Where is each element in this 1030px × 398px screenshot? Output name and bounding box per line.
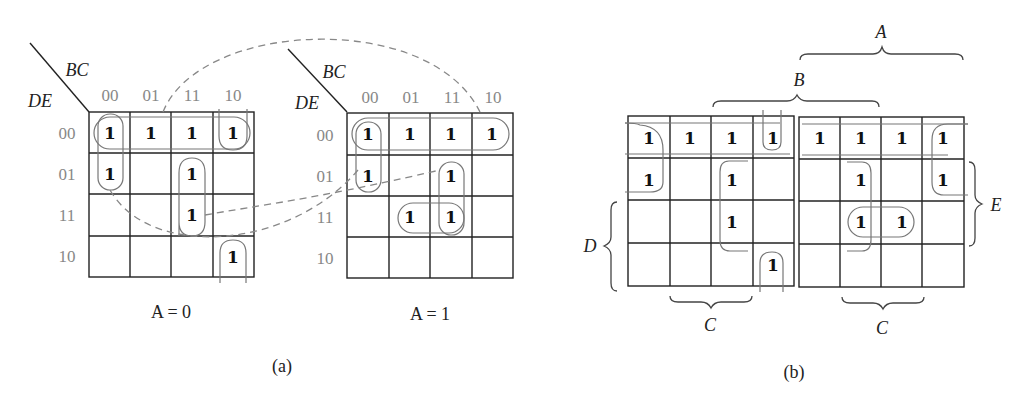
grid — [628, 116, 964, 287]
col-var-label: BC — [65, 60, 89, 80]
cell-one: 1 — [486, 124, 498, 144]
cell-one: 1 — [643, 170, 655, 190]
cell-one: 1 — [445, 207, 457, 227]
cell-one: 1 — [814, 128, 826, 148]
cell-one: 1 — [896, 212, 908, 232]
brace-A — [800, 47, 963, 60]
row-code: 10 — [317, 249, 334, 268]
cell-one: 1 — [855, 170, 867, 190]
cell-one: 1 — [104, 123, 116, 143]
brace-E — [969, 162, 982, 246]
cell-one: 1 — [643, 128, 655, 148]
brace-C-left — [670, 296, 752, 308]
col-code: 10 — [485, 88, 502, 107]
figure-caption-b: (b) — [784, 362, 805, 383]
row-code: 01 — [59, 165, 76, 184]
cell-one: 1 — [186, 164, 198, 184]
col-code: 10 — [225, 86, 242, 105]
row-var-label: DE — [294, 93, 319, 113]
brace-label-B: B — [794, 70, 805, 90]
row-code: 11 — [317, 208, 333, 227]
col-code: 00 — [102, 86, 119, 105]
cell-one: 1 — [855, 128, 867, 148]
col-code: 01 — [403, 88, 420, 107]
cell-one: 1 — [186, 123, 198, 143]
cell-one: 1 — [362, 124, 374, 144]
cell-one: 1 — [445, 166, 457, 186]
cell-one: 1 — [227, 247, 239, 267]
cell-one: 1 — [404, 124, 416, 144]
brace-D — [604, 202, 617, 291]
cell-one: 1 — [767, 128, 779, 148]
cell-one: 1 — [684, 128, 696, 148]
cell-one: 1 — [227, 123, 239, 143]
kmap-a0: BC DE 00 01 11 10 00 01 11 10 11111111 — [27, 43, 254, 322]
cell-one: 1 — [445, 124, 457, 144]
figure-caption-a: (a) — [272, 356, 292, 377]
row-code: 11 — [59, 206, 75, 225]
cell-one: 1 — [855, 212, 867, 232]
row-code: 01 — [317, 167, 334, 186]
row-code: 00 — [59, 124, 76, 143]
col-code: 11 — [184, 86, 200, 105]
brace-label-A: A — [875, 22, 888, 42]
row-var-label: DE — [27, 91, 52, 111]
col-var-label: BC — [322, 62, 346, 82]
karnaugh-map-figure: BC DE 00 01 11 10 00 01 11 10 11111111 — [0, 0, 1030, 398]
cell-one: 1 — [104, 164, 116, 184]
cell-one: 1 — [186, 205, 198, 225]
cell-one: 1 — [404, 207, 416, 227]
col-code: 01 — [143, 86, 160, 105]
row-code: 00 — [317, 126, 334, 145]
brace-C-right — [842, 297, 924, 309]
cell-one: 1 — [937, 128, 949, 148]
figure-a: BC DE 00 01 11 10 00 01 11 10 11111111 — [27, 39, 513, 377]
brace-label-C-left: C — [704, 315, 717, 335]
cell-one: 1 — [726, 212, 738, 232]
cell-one: 1 — [145, 123, 157, 143]
figure-b: 1111111111111111 A B C C D E (b) — [583, 22, 1002, 383]
map-label: A = 0 — [151, 302, 191, 322]
cell-one: 1 — [937, 170, 949, 190]
col-code: 11 — [444, 88, 460, 107]
cell-one: 1 — [896, 128, 908, 148]
brace-label-C-right: C — [876, 318, 889, 338]
cell-one: 1 — [767, 255, 779, 275]
brace-label-D: D — [583, 236, 597, 256]
map-label: A = 1 — [410, 304, 450, 324]
cell-one: 1 — [362, 166, 374, 186]
brace-label-E: E — [990, 195, 1002, 215]
kmap-a1: BC DE 00 01 11 10 00 01 11 10 11111111 — [288, 49, 513, 324]
row-code: 10 — [59, 247, 76, 266]
cell-one: 1 — [726, 170, 738, 190]
cell-one: 1 — [726, 128, 738, 148]
col-code: 00 — [362, 88, 379, 107]
brace-B — [713, 95, 879, 107]
